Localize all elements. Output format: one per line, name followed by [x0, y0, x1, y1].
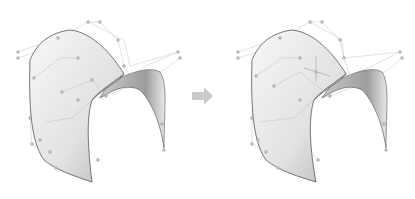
surface-before	[0, 0, 200, 199]
nurbs-surface-after	[200, 0, 415, 199]
nurbs-surface-before	[0, 0, 200, 199]
surface-after	[200, 0, 415, 199]
